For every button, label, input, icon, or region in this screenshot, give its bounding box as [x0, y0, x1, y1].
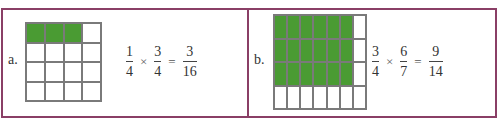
grid-cell — [354, 40, 365, 62]
grid-cell — [328, 87, 339, 109]
grid-cell-shaded — [288, 40, 299, 62]
grid-cell-shaded — [314, 16, 325, 38]
grid-cell — [27, 83, 44, 101]
grid-cell — [83, 63, 100, 81]
fraction-factor-2: 6 7 — [400, 44, 407, 79]
fraction-factor-2: 3 4 — [154, 44, 161, 79]
grid-cell-shaded — [328, 63, 339, 85]
equals-sign: = — [414, 54, 421, 70]
grid-cell-shaded — [301, 63, 312, 85]
grid-cell — [46, 63, 63, 81]
grid-cell — [65, 44, 82, 62]
panel-divider — [247, 8, 249, 116]
grid-cell — [65, 83, 82, 101]
numerator: 3 — [372, 44, 379, 59]
numerator: 9 — [432, 44, 439, 59]
grid-cell — [83, 83, 100, 101]
grid-cell-shaded — [275, 40, 286, 62]
fraction-equation: 1 4 × 3 4 = 3 16 — [126, 44, 197, 79]
fraction-bar — [372, 61, 379, 62]
multiply-sign: × — [140, 54, 147, 70]
grid-cell — [83, 24, 100, 42]
numerator: 3 — [186, 44, 193, 59]
denominator: 4 — [154, 64, 161, 79]
grid-cell-shaded — [341, 63, 352, 85]
fraction-equation: 3 4 × 6 7 = 9 14 — [372, 44, 443, 79]
fraction-result: 3 16 — [183, 44, 197, 79]
denominator: 14 — [429, 64, 443, 79]
grid-cell — [341, 87, 352, 109]
area-model-grid — [273, 14, 367, 110]
fraction-bar — [126, 61, 133, 62]
grid-cell-shaded — [288, 63, 299, 85]
grid-cell-shaded — [65, 24, 82, 42]
fraction-result: 9 14 — [429, 44, 443, 79]
grid-cell-shaded — [275, 16, 286, 38]
denominator: 7 — [400, 64, 407, 79]
numerator: 6 — [400, 44, 407, 59]
denominator: 4 — [372, 64, 379, 79]
grid-cell — [83, 44, 100, 62]
grid-cell — [46, 83, 63, 101]
grid-cell-shaded — [328, 16, 339, 38]
multiply-sign: × — [386, 54, 393, 70]
grid-cell — [27, 63, 44, 81]
grid-cell — [314, 87, 325, 109]
fraction-factor-1: 3 4 — [372, 44, 379, 79]
grid-cell-shaded — [341, 40, 352, 62]
grid-cell-shaded — [341, 16, 352, 38]
grid-cell — [288, 87, 299, 109]
fraction-bar — [183, 61, 197, 62]
fraction-bar — [154, 61, 161, 62]
denominator: 4 — [126, 64, 133, 79]
numerator: 3 — [154, 44, 161, 59]
grid-cell-shaded — [328, 40, 339, 62]
grid-cell — [354, 16, 365, 38]
grid-cell — [65, 63, 82, 81]
denominator: 16 — [183, 64, 197, 79]
grid-cell-shaded — [46, 24, 63, 42]
grid-cell-shaded — [275, 63, 286, 85]
grid-cell-shaded — [301, 16, 312, 38]
fraction-bar — [429, 61, 443, 62]
panel-label: b. — [254, 52, 265, 68]
grid-cell — [354, 87, 365, 109]
panel-label: a. — [8, 52, 18, 68]
grid-cell-shaded — [27, 24, 44, 42]
grid-cell — [27, 44, 44, 62]
area-model-grid — [25, 22, 102, 102]
grid-cell-shaded — [288, 16, 299, 38]
fraction-factor-1: 1 4 — [126, 44, 133, 79]
grid-cell-shaded — [301, 40, 312, 62]
grid-cell — [46, 44, 63, 62]
grid-cell — [354, 63, 365, 85]
equals-sign: = — [168, 54, 175, 70]
grid-cell — [275, 87, 286, 109]
grid-cell-shaded — [314, 63, 325, 85]
fraction-bar — [400, 61, 407, 62]
numerator: 1 — [126, 44, 133, 59]
grid-cell — [301, 87, 312, 109]
grid-cell-shaded — [314, 40, 325, 62]
